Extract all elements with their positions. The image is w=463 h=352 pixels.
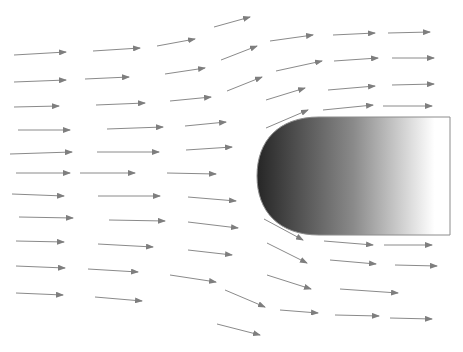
arrow-vector-icon <box>227 77 262 91</box>
arrow-vector-icon <box>14 80 66 82</box>
arrow-vector-icon <box>16 266 65 268</box>
arrow-vector-icon <box>19 217 73 218</box>
arrow-vector-icon <box>188 250 232 255</box>
arrow-vector-icon <box>266 88 305 100</box>
arrow-vector-icon <box>170 275 216 282</box>
arrow-vector-icon <box>221 46 257 60</box>
arrow-vector-icon <box>93 48 140 51</box>
arrow-vector-icon <box>333 33 375 35</box>
arrow-vector-icon <box>388 32 430 33</box>
arrow-vector-icon <box>12 194 64 196</box>
arrow-vector-icon <box>14 52 66 55</box>
arrow-vector-icon <box>340 289 398 293</box>
arrow-vector-icon <box>186 147 232 150</box>
arrow-vector-icon <box>188 222 238 228</box>
arrow-vector-icon <box>395 265 437 266</box>
blunt-body-shape <box>257 117 450 235</box>
arrow-vector-icon <box>167 173 216 174</box>
arrow-vector-icon <box>335 315 379 316</box>
arrow-vector-icon <box>107 127 163 129</box>
arrow-vector-icon <box>165 68 205 74</box>
arrow-vector-icon <box>334 58 378 61</box>
arrow-vector-icon <box>324 241 373 245</box>
arrow-vector-icon <box>270 35 313 41</box>
arrow-vector-icon <box>276 61 322 71</box>
arrow-vector-icon <box>85 77 129 79</box>
flow-diagram <box>0 0 463 352</box>
arrow-vector-icon <box>188 197 236 201</box>
arrow-vector-icon <box>170 97 211 101</box>
arrow-vector-icon <box>280 310 318 313</box>
arrow-vector-icon <box>225 290 265 307</box>
arrow-vector-icon <box>88 269 138 272</box>
arrow-vector-icon <box>217 324 260 335</box>
arrow-vector-icon <box>267 243 307 263</box>
arrow-vector-icon <box>214 17 250 27</box>
arrow-vector-icon <box>109 220 165 221</box>
arrow-vector-icon <box>10 152 72 154</box>
arrow-vector-icon <box>392 84 434 85</box>
arrow-vector-icon <box>185 122 226 126</box>
arrow-vector-icon <box>16 293 63 295</box>
arrow-vector-icon <box>328 86 375 90</box>
arrow-vector-icon <box>267 275 311 289</box>
arrow-vector-icon <box>390 318 432 319</box>
arrow-vector-icon <box>14 106 59 107</box>
arrow-vector-icon <box>96 103 145 105</box>
arrow-vector-icon <box>98 244 153 247</box>
arrow-vector-icon <box>330 260 376 264</box>
arrow-vector-icon <box>323 105 373 110</box>
arrow-vector-icon <box>95 297 142 301</box>
arrow-vector-icon <box>157 39 195 46</box>
arrow-vector-icon <box>16 241 64 242</box>
